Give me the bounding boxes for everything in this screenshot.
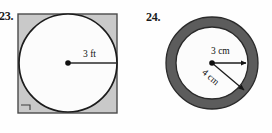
radius-label-3ft: 3 ft <box>83 50 96 60</box>
problem-23: 23. 3 ft <box>0 0 136 133</box>
figure-circle-in-square <box>0 0 136 133</box>
page-bottom-margin <box>0 130 272 133</box>
center-point-dot <box>209 60 215 66</box>
inner-radius-label-3cm: 3 cm <box>211 47 230 57</box>
exercise-page: 23. 3 ft 24. <box>0 0 272 133</box>
center-point-dot <box>65 60 71 66</box>
problem-24: 24. 3 cm 4 cm <box>136 0 272 133</box>
figure-annulus-ring <box>136 0 272 133</box>
